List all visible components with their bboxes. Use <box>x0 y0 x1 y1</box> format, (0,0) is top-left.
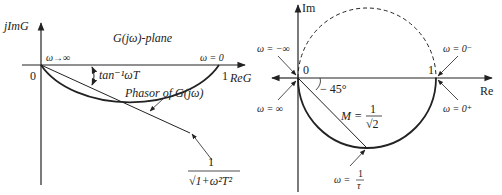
corner-pointer <box>350 150 365 166</box>
M-numerator: 1 <box>370 102 376 116</box>
omega-corner-label: ω = <box>334 174 350 185</box>
angle-label: tan⁻¹ωT <box>99 68 141 82</box>
omega-pos-inf-label: ω = ∞ <box>257 103 283 114</box>
right-origin-label: 0 <box>303 63 309 77</box>
omega-corner-numerator: 1 <box>358 168 363 179</box>
right-x-axis-label: Re <box>480 84 493 98</box>
upper-dashed-semicircle <box>298 8 436 78</box>
left-y-axis-label: jImG <box>2 19 29 33</box>
magnitude-numerator: 1 <box>208 155 214 169</box>
plane-label: G(jω)-plane <box>113 31 173 45</box>
neg-inf-pointer <box>278 56 296 75</box>
omega-corner-denominator: τ <box>357 180 361 191</box>
left-origin-label: 0 <box>30 69 36 83</box>
omega-zero-plus-label: ω = 0⁺ <box>443 103 472 114</box>
zero-plus-pointer <box>438 80 458 100</box>
magnitude-denominator: √1+ω²T² <box>189 174 232 188</box>
right-one-label: 1 <box>428 63 434 77</box>
right-y-axis-label: Im <box>302 1 316 15</box>
omega-inf-label: ω→∞ <box>46 52 70 63</box>
M-denominator: √2 <box>366 117 379 131</box>
M-label: M = <box>340 109 362 123</box>
pos-inf-pointer <box>278 81 296 100</box>
omega-zero-label: ω = 0 <box>200 52 224 63</box>
right-plot: Im Re 0 1 ω = −∞ ω = ∞ ω = 0⁻ ω = 0⁺ − 4… <box>257 1 493 192</box>
angle-arc <box>92 67 94 85</box>
zero-minus-pointer <box>438 56 458 76</box>
omega-neg-inf-label: ω = −∞ <box>257 43 290 54</box>
left-one-label: 1 <box>222 69 228 83</box>
angle-45-label: − 45° <box>320 82 347 96</box>
polar-plot-diagram: jImG G(jω)-plane ω→∞ ω = 0 0 1 ReG tan⁻¹… <box>0 0 502 195</box>
phasor-label: Phasor of G(jω) <box>124 86 203 100</box>
lower-semicircle <box>298 78 436 148</box>
left-x-axis-label: ReG <box>229 71 252 85</box>
left-plot: jImG G(jω)-plane ω→∞ ω = 0 0 1 ReG tan⁻¹… <box>2 19 252 188</box>
omega-zero-minus-label: ω = 0⁻ <box>443 43 472 54</box>
